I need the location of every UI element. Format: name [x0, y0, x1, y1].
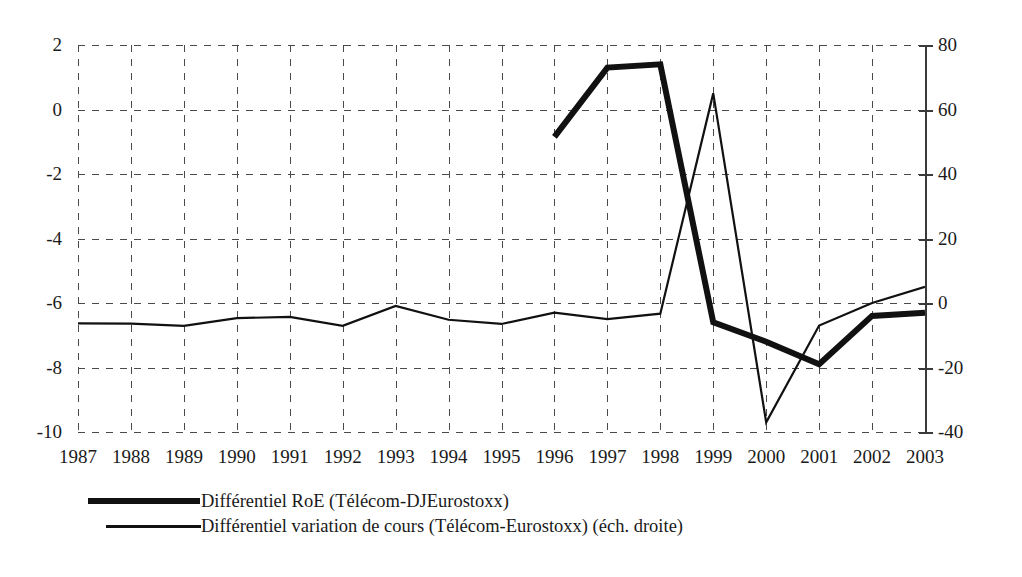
x-tick-label-2001: 2001 [800, 446, 838, 467]
left-tick-label: -10 [37, 422, 62, 441]
right-tick-label: 20 [938, 229, 957, 248]
legend-label-variation-cours: Différentiel variation de cours (Télécom… [201, 516, 683, 536]
right-tick-label: -40 [938, 422, 963, 441]
x-tick-label-1991: 1991 [271, 446, 309, 467]
legend-item-roe: Différentiel RoE (Télécom-DJEurostoxx) [88, 489, 788, 514]
x-tick-label-1995: 1995 [483, 446, 521, 467]
left-axis-tick-labels: 20-2-4-6-8-10 [0, 45, 70, 432]
x-tick-label-1989: 1989 [165, 446, 203, 467]
legend-swatch-thick [88, 498, 200, 504]
right-tick-label: 60 [938, 100, 957, 119]
x-tick-label-1998: 1998 [641, 446, 679, 467]
x-tick-label-1987: 1987 [59, 446, 97, 467]
left-tick-label: -2 [46, 164, 62, 183]
series-line-variation-cours [78, 93, 925, 422]
gridline-h-neg10 [78, 432, 925, 433]
left-tick-label: 0 [53, 100, 63, 119]
x-tick-label-2002: 2002 [853, 446, 891, 467]
x-tick-label-1988: 1988 [112, 446, 150, 467]
left-tick-label: -4 [46, 229, 62, 248]
x-axis-tick-labels: 1987198819891990199119921993199419951996… [78, 446, 925, 472]
left-tick-label: 2 [53, 35, 63, 54]
series-lines [78, 45, 925, 432]
chart-container: 20-2-4-6-8-10 806040200-20-40 1987198819… [0, 0, 1022, 577]
right-tick-label: 40 [938, 164, 957, 183]
x-tick-label-2003: 2003 [906, 446, 944, 467]
right-tick-label: 0 [938, 293, 948, 312]
x-tick-label-1990: 1990 [218, 446, 256, 467]
left-tick-label: -6 [46, 293, 62, 312]
right-tick-mark [919, 432, 933, 434]
x-tick-label-1994: 1994 [430, 446, 468, 467]
chart-legend: Différentiel RoE (Télécom-DJEurostoxx) D… [88, 489, 788, 539]
right-tick-label: -20 [938, 358, 963, 377]
legend-item-variation-cours: Différentiel variation de cours (Télécom… [88, 514, 788, 539]
right-axis-tick-labels: 806040200-20-40 [938, 45, 1008, 432]
x-tick-label-1993: 1993 [377, 446, 415, 467]
legend-label-roe: Différentiel RoE (Télécom-DJEurostoxx) [201, 491, 509, 511]
x-tick-label-1997: 1997 [588, 446, 626, 467]
legend-swatch-thin [106, 525, 201, 528]
right-tick-label: 80 [938, 35, 957, 54]
left-tick-label: -8 [46, 358, 62, 377]
x-tick-label-1996: 1996 [535, 446, 573, 467]
x-tick-label-2000: 2000 [747, 446, 785, 467]
x-tick-label-1992: 1992 [324, 446, 362, 467]
x-tick-label-1999: 1999 [694, 446, 732, 467]
